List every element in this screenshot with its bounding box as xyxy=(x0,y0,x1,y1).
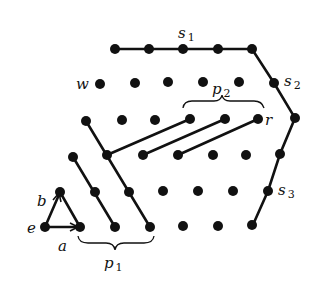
label-s1: s1 xyxy=(178,24,195,44)
path-s-boundary xyxy=(115,49,295,227)
label-b: b xyxy=(37,192,47,210)
label-p1: p1 xyxy=(104,254,123,274)
lattice-diagram: s1 s2 s3 p2 p1 w r a b e xyxy=(0,0,321,285)
label-w: w xyxy=(76,75,89,93)
path-p1-b xyxy=(86,121,150,227)
label-s2: s2 xyxy=(284,72,301,92)
path-p2-c xyxy=(178,119,258,155)
label-s3: s3 xyxy=(278,181,295,201)
path-p2-a xyxy=(107,119,190,155)
label-p2: p2 xyxy=(212,80,231,100)
edge-b-a xyxy=(60,192,80,227)
label-a: a xyxy=(58,237,67,255)
label-r: r xyxy=(265,111,273,129)
label-e: e xyxy=(27,219,36,237)
braces xyxy=(78,95,264,250)
brace-p1 xyxy=(78,236,154,250)
